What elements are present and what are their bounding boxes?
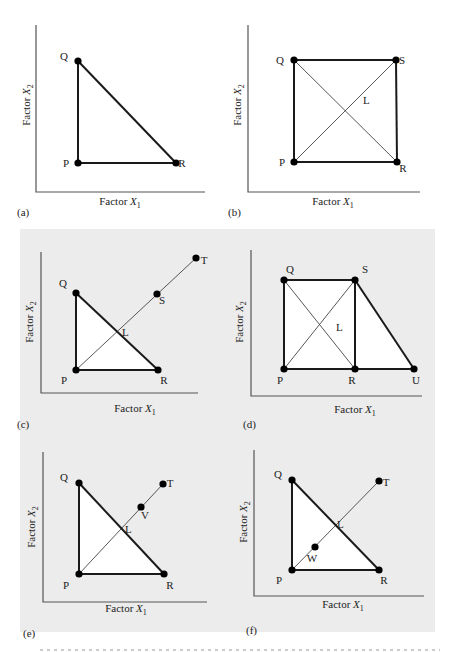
panel-tag: (a) bbox=[17, 206, 30, 219]
point-P-marker-icon bbox=[72, 366, 79, 373]
point-T-marker-icon bbox=[192, 254, 199, 261]
panel-a: PQRFactor X1Factor X2(a) bbox=[17, 25, 205, 219]
point-label-T: T bbox=[383, 476, 390, 488]
panel-tag: (f) bbox=[246, 624, 257, 637]
point-P-marker-icon bbox=[290, 158, 297, 165]
figure-canvas: PQRFactor X1Factor X2(a)PQSRLFactor X1Fa… bbox=[0, 0, 450, 652]
point-S-marker-icon bbox=[351, 276, 358, 283]
panel-tag: (e) bbox=[23, 627, 36, 640]
point-P-marker-icon bbox=[280, 365, 287, 372]
point-label-S: S bbox=[159, 294, 165, 306]
point-Q-marker-icon bbox=[280, 276, 287, 283]
panel-tag: (d) bbox=[243, 418, 256, 431]
point-label-L: L bbox=[337, 518, 344, 530]
point-label-P: P bbox=[279, 156, 285, 168]
x-axis-label: Factor X1 bbox=[312, 195, 354, 210]
point-Q-marker-icon bbox=[290, 56, 297, 63]
point-label-P: P bbox=[276, 574, 282, 586]
point-label-R: R bbox=[380, 574, 388, 586]
point-Q-marker-icon bbox=[288, 476, 295, 483]
point-W-marker-icon bbox=[311, 543, 318, 550]
point-label-Q: Q bbox=[60, 50, 68, 62]
point-label-Q: Q bbox=[276, 54, 284, 66]
point-Q-marker-icon bbox=[72, 289, 79, 296]
point-P-marker-icon bbox=[74, 159, 81, 166]
y-axis-label: Factor X2 bbox=[20, 84, 35, 126]
point-U-marker-icon bbox=[410, 365, 417, 372]
point-T-marker-icon bbox=[159, 480, 166, 487]
point-Q-marker-icon bbox=[74, 57, 81, 64]
point-R-marker-icon bbox=[351, 365, 358, 372]
point-R-marker-icon bbox=[375, 566, 382, 573]
point-label-V: V bbox=[141, 509, 149, 521]
point-label-T: T bbox=[201, 254, 208, 266]
point-label-L: L bbox=[363, 94, 370, 106]
point-label-P: P bbox=[63, 579, 69, 591]
point-label-L: L bbox=[336, 321, 343, 333]
point-label-W: W bbox=[307, 552, 318, 564]
point-label-R: R bbox=[399, 162, 407, 174]
point-label-U: U bbox=[412, 374, 420, 386]
point-R-marker-icon bbox=[154, 366, 161, 373]
point-P-marker-icon bbox=[288, 566, 295, 573]
point-label-R: R bbox=[348, 374, 356, 386]
point-label-T: T bbox=[167, 477, 174, 489]
point-P-marker-icon bbox=[75, 570, 82, 577]
point-label-Q: Q bbox=[286, 263, 294, 275]
panel-tag: (b) bbox=[228, 206, 241, 219]
point-label-L: L bbox=[125, 523, 132, 535]
point-label-P: P bbox=[277, 374, 283, 386]
point-label-Q: Q bbox=[60, 471, 68, 483]
panel-b: PQSRLFactor X1Factor X2(b) bbox=[228, 25, 420, 219]
point-label-R: R bbox=[178, 157, 186, 169]
point-Q-marker-icon bbox=[75, 479, 82, 486]
panel-tag: (c) bbox=[17, 418, 30, 431]
point-label-R: R bbox=[160, 374, 168, 386]
point-label-S: S bbox=[399, 54, 405, 66]
point-label-P: P bbox=[61, 374, 67, 386]
y-axis-label: Factor X2 bbox=[231, 84, 246, 126]
point-label-Q: Q bbox=[59, 277, 67, 289]
point-label-R: R bbox=[166, 579, 174, 591]
x-axis-label: Factor X1 bbox=[99, 195, 141, 210]
point-R-marker-icon bbox=[160, 570, 167, 577]
point-label-L: L bbox=[122, 326, 129, 338]
point-label-S: S bbox=[362, 263, 368, 275]
point-label-Q: Q bbox=[274, 468, 282, 480]
point-T-marker-icon bbox=[375, 477, 382, 484]
edge-SR bbox=[396, 60, 397, 162]
point-label-P: P bbox=[63, 157, 69, 169]
